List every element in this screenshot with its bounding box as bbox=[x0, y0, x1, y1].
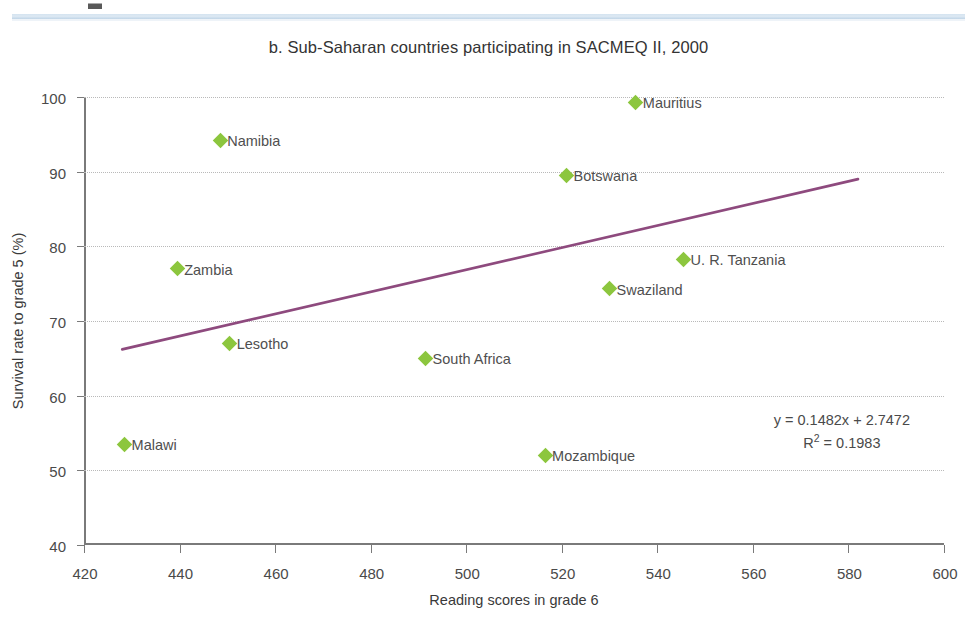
y-tick-label-90: 90 bbox=[49, 164, 66, 181]
x-tick-label-500: 500 bbox=[455, 565, 480, 582]
page-title: b. Sub-Saharan countries participating i… bbox=[0, 38, 977, 57]
x-tick-420: 420 bbox=[84, 545, 85, 553]
y-tick-label-60: 60 bbox=[49, 388, 66, 405]
y-tick-label-80: 80 bbox=[49, 239, 66, 256]
x-tick-500: 500 bbox=[466, 545, 467, 553]
x-axis-title: Reading scores in grade 6 bbox=[84, 592, 944, 608]
r-squared-symbol: R bbox=[803, 435, 813, 451]
x-tick-480: 480 bbox=[371, 545, 372, 553]
y-tick-90: 90 bbox=[77, 172, 84, 173]
data-point-label: Zambia bbox=[184, 262, 232, 278]
y-tick-label-70: 70 bbox=[49, 314, 66, 331]
x-tick-580: 580 bbox=[848, 545, 849, 553]
y-tick-label-50: 50 bbox=[49, 463, 66, 480]
x-tick-label-540: 540 bbox=[646, 565, 671, 582]
y-tick-50: 50 bbox=[77, 470, 84, 471]
y-tick-40: 40 bbox=[77, 545, 84, 546]
regression-annotation: y = 0.1482x + 2.7472 R2 = 0.1983 bbox=[774, 410, 910, 454]
trend-line bbox=[84, 97, 944, 545]
plot-area: 405060708090100 420440460480500520540560… bbox=[84, 97, 944, 545]
chart-page: b. Sub-Saharan countries participating i… bbox=[0, 0, 977, 627]
data-point-label: Swaziland bbox=[617, 282, 683, 298]
data-point-label: Namibia bbox=[227, 133, 280, 149]
x-tick-520: 520 bbox=[562, 545, 563, 553]
x-tick-460: 460 bbox=[275, 545, 276, 553]
x-tick-label-520: 520 bbox=[550, 565, 575, 582]
x-tick-440: 440 bbox=[180, 545, 181, 553]
y-axis-title: Survival rate to grade 5 (%) bbox=[10, 97, 32, 545]
x-tick-540: 540 bbox=[657, 545, 658, 553]
y-tick-100: 100 bbox=[77, 97, 84, 98]
r-squared: R2 = 0.1983 bbox=[774, 431, 910, 454]
y-tick-label-100: 100 bbox=[41, 90, 66, 107]
data-point-label: Botswana bbox=[574, 168, 638, 184]
x-tick-label-460: 460 bbox=[264, 565, 289, 582]
r-squared-value: = 0.1983 bbox=[820, 435, 881, 451]
data-point-label: U. R. Tanzania bbox=[691, 252, 786, 268]
x-tick-label-580: 580 bbox=[837, 565, 862, 582]
regression-equation: y = 0.1482x + 2.7472 bbox=[774, 410, 910, 431]
data-point-label: Mozambique bbox=[552, 448, 635, 464]
y-tick-80: 80 bbox=[77, 246, 84, 247]
x-tick-label-480: 480 bbox=[359, 565, 384, 582]
x-tick-label-560: 560 bbox=[741, 565, 766, 582]
page-top-glyph bbox=[88, 0, 102, 9]
x-tick-560: 560 bbox=[753, 545, 754, 553]
x-tick-label-420: 420 bbox=[72, 565, 97, 582]
x-tick-600: 600 bbox=[944, 545, 945, 553]
y-tick-label-40: 40 bbox=[49, 538, 66, 555]
x-tick-label-600: 600 bbox=[932, 565, 957, 582]
data-point-label: Mauritius bbox=[643, 95, 702, 111]
header-rule-highlight bbox=[12, 19, 965, 21]
x-tick-label-440: 440 bbox=[168, 565, 193, 582]
y-tick-70: 70 bbox=[77, 321, 84, 322]
data-point-label: Malawi bbox=[132, 437, 177, 453]
data-point-label: South Africa bbox=[433, 351, 511, 367]
y-tick-60: 60 bbox=[77, 396, 84, 397]
data-point-label: Lesotho bbox=[237, 336, 289, 352]
